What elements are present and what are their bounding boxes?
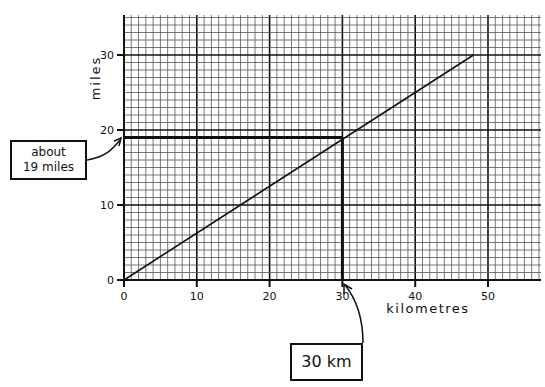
x-tick-label: 30 — [335, 290, 349, 303]
x-tick-label: 50 — [481, 290, 495, 303]
y-tick-label: 0 — [107, 274, 114, 287]
about-19-miles-callout: about 19 miles — [10, 140, 87, 180]
arrow-to-19-miles — [87, 140, 120, 160]
30-km-callout: 30 km — [290, 343, 363, 381]
y-axis-label: miles — [88, 56, 103, 101]
x-tick-label: 20 — [263, 290, 277, 303]
y-tick-label: 10 — [100, 199, 114, 212]
y-tick-label: 20 — [100, 124, 114, 137]
callout-line-2: 19 miles — [12, 160, 85, 175]
conversion-graph: 010203040500102030 miles kilometres — [0, 0, 545, 387]
x-axis-label: kilometres — [386, 301, 469, 316]
callout-line-1: about — [12, 145, 85, 160]
x-tick-label: 10 — [190, 290, 204, 303]
x-tick-label: 0 — [121, 290, 128, 303]
